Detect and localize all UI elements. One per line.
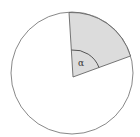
angle-alpha-label: α <box>78 58 84 68</box>
circle-sector-diagram <box>0 0 140 137</box>
